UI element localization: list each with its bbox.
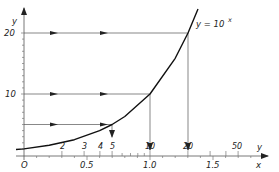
y-tick-20: 20 [4,28,15,38]
log-label-5: 5 [110,142,115,151]
x-tick-1.0: 1.0 [143,160,157,170]
x-axis-label: x [255,160,262,170]
mapping-arrows [24,33,188,150]
curve-label: y = 10 x [195,16,232,29]
exponential-chart: y 20 10 [0,0,279,172]
y-axis-label: y [11,16,18,26]
x-tick-0.5: 0.5 [80,160,94,170]
exponential-curve [16,9,198,150]
y-tick-10: 10 [5,89,16,99]
arrowheads-horizontal [50,31,108,127]
log-label-3: 3 [82,142,87,151]
curve-label-exponent: x [227,16,232,24]
log-label-4: 4 [98,142,103,151]
log-axis-label: y [256,142,263,152]
x-origin-label: O [21,160,28,170]
log-label-50: 50 [232,142,242,151]
x-tick-1.5: 1.5 [206,160,220,170]
y-axis: y 20 10 [4,8,24,160]
curve-label-base: y = 10 [195,19,224,29]
x-axis: O 0.5 1.0 1.5 x 2 3 4 5 10 20 50 y [16,142,268,170]
